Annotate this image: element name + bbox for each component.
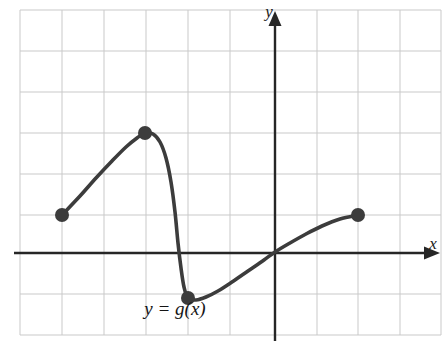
curve-point-marker (55, 208, 69, 222)
graph-figure: x y y = g(x) (0, 0, 446, 343)
coordinate-plane-svg: x y y = g(x) (0, 0, 446, 343)
y-axis-label: y (263, 2, 273, 21)
curve-point-marker (351, 208, 365, 222)
curve-equation-label: y = g(x) (142, 298, 205, 320)
curve-point-marker (138, 126, 152, 140)
x-axis-label: x (428, 234, 437, 253)
